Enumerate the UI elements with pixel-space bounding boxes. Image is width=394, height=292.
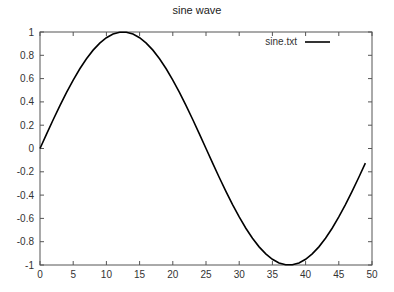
x-tick-label: 0 — [37, 269, 43, 280]
legend-label: sine.txt — [265, 36, 297, 47]
x-tick-label: 25 — [200, 269, 212, 280]
y-tick-label: 0.4 — [20, 96, 34, 107]
y-tick-label: 0.8 — [20, 50, 34, 61]
y-tick-label: -0.6 — [17, 213, 35, 224]
x-tick-label: 5 — [70, 269, 76, 280]
line-chart: 05101520253035404550 -1-0.8-0.6-0.4-0.20… — [0, 0, 394, 292]
y-tick-label: -0.2 — [17, 166, 35, 177]
y-tick-label: 0.2 — [20, 120, 34, 131]
y-tick-label: -0.8 — [17, 236, 35, 247]
y-tick-label: 0.6 — [20, 73, 34, 84]
y-tick-label: 0 — [28, 143, 34, 154]
y-axis: -1-0.8-0.6-0.4-0.200.20.40.60.81 — [17, 27, 372, 271]
x-tick-label: 30 — [234, 269, 246, 280]
x-axis: 05101520253035404550 — [37, 32, 378, 280]
x-tick-label: 50 — [366, 269, 378, 280]
y-tick-label: -0.4 — [17, 190, 35, 201]
series-line-sine — [40, 32, 365, 265]
x-tick-label: 35 — [267, 269, 279, 280]
legend: sine.txt — [265, 36, 330, 47]
x-tick-label: 20 — [167, 269, 179, 280]
x-tick-label: 15 — [134, 269, 146, 280]
x-tick-label: 45 — [333, 269, 345, 280]
y-tick-label: 1 — [28, 27, 34, 38]
x-tick-label: 10 — [101, 269, 113, 280]
y-tick-label: -1 — [25, 260, 34, 271]
x-tick-label: 40 — [300, 269, 312, 280]
